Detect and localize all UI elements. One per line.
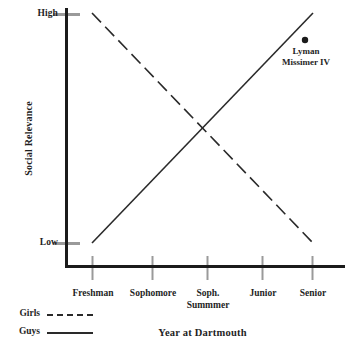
x-axis-label-junior: Junior (236, 288, 290, 300)
chart-figure: High Low Social Relevance Freshman Sopho… (0, 0, 350, 348)
x-axis-label-senior: Senior (285, 288, 341, 300)
chart-legend: Girls Guys (4, 307, 124, 343)
y-axis-title: Social Relevance (23, 64, 34, 214)
x-axis-label-soph-summer-line2: Summmer (187, 300, 230, 310)
y-axis-label-low: Low (20, 237, 58, 248)
x-axis-label-freshman: Freshman (60, 288, 126, 300)
x-axis-label-soph-summer-line1: Soph. (197, 288, 220, 298)
legend-swatch-girls-dashed (47, 314, 93, 319)
annotation-label: Lyman Missimer IV (262, 46, 350, 67)
annotation-dot (302, 37, 308, 43)
x-axis-label-soph-summer: Soph. Summmer (177, 288, 239, 311)
legend-item-guys: Guys (4, 325, 124, 343)
legend-swatch-guys-solid (47, 332, 93, 337)
legend-label-guys: Guys (4, 326, 40, 336)
annotation-label-line1: Lyman (262, 46, 350, 57)
legend-item-girls: Girls (4, 307, 124, 325)
x-axis-title: Year at Dartmouth (95, 327, 310, 338)
y-axis-label-high: High (20, 8, 58, 19)
annotation-label-line2: Missimer IV (262, 57, 350, 68)
legend-label-girls: Girls (4, 308, 40, 318)
